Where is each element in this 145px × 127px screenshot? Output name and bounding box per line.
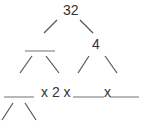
branch-blank-right — [46, 56, 59, 73]
branch-4-right — [105, 56, 117, 73]
factor-tree-lines — [0, 0, 145, 127]
branch-bottom-left — [2, 103, 13, 120]
multiply-operator: x — [104, 85, 111, 99]
branch-root-right — [80, 20, 93, 33]
factor-4: 4 — [92, 37, 100, 51]
multiply-2-operator: x 2 x — [41, 85, 71, 99]
root-number: 32 — [63, 3, 79, 17]
branch-blank-left — [20, 56, 32, 73]
branch-4-left — [78, 56, 89, 73]
branch-root-left — [44, 20, 57, 33]
branch-bottom-right — [25, 103, 36, 120]
